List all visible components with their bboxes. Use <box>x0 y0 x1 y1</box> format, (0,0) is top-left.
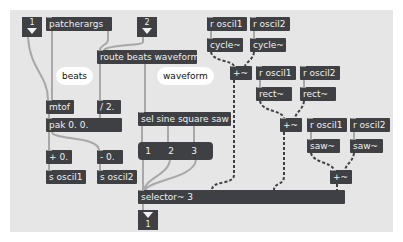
message-box[interactable]: 1 2 3 <box>138 142 213 160</box>
inlet-number: 2 <box>137 19 157 27</box>
receive-oscil1-object[interactable]: r oscil1 <box>256 66 296 80</box>
signal-plus-object[interactable]: +~ <box>230 66 252 80</box>
cord-sig-1 <box>212 80 234 190</box>
cord-inlet2-route <box>104 37 143 50</box>
cycle-object[interactable]: cycle~ <box>250 38 286 52</box>
message-item-3[interactable]: 3 <box>184 142 204 160</box>
receive-oscil1-object[interactable]: r oscil1 <box>307 118 347 132</box>
cord-patcherargs-route <box>100 31 108 50</box>
rect-object[interactable]: rect~ <box>300 87 336 101</box>
inlet-arrow-icon <box>142 28 152 34</box>
outlet-arrow-icon <box>143 212 153 218</box>
inlet-1[interactable]: 1 <box>22 17 42 37</box>
route-object[interactable]: route beats waveform <box>97 50 197 64</box>
sel-object[interactable]: sel sine square saw <box>138 112 231 126</box>
receive-oscil1-object[interactable]: r oscil1 <box>207 17 247 31</box>
waveform-comment: waveform <box>157 67 214 85</box>
outlet-1[interactable]: 1 <box>138 210 158 230</box>
message-item-1[interactable]: 1 <box>138 142 158 160</box>
inlet-number: 1 <box>22 19 42 27</box>
cycle-object[interactable]: cycle~ <box>207 38 243 52</box>
receive-oscil2-object[interactable]: r oscil2 <box>250 17 290 31</box>
minus-object[interactable]: - 0. <box>97 150 123 164</box>
mtof-object[interactable]: mtof <box>46 100 74 114</box>
divide-object[interactable]: / 2. <box>97 100 121 114</box>
patcherargs-object[interactable]: patcherargs <box>46 17 112 31</box>
saw-object[interactable]: saw~ <box>350 139 383 153</box>
cord-sig-2 <box>274 132 284 190</box>
inlet-2[interactable]: 2 <box>137 17 157 37</box>
send-oscil1-object[interactable]: s oscil1 <box>46 170 86 184</box>
cord-pak-minus0 <box>52 132 99 150</box>
receive-oscil2-object[interactable]: r oscil2 <box>350 118 390 132</box>
signal-plus-object[interactable]: +~ <box>330 170 352 184</box>
signal-plus-object[interactable]: +~ <box>280 118 302 132</box>
message-item-2[interactable]: 2 <box>161 142 181 160</box>
outlet-number: 1 <box>138 221 158 229</box>
rect-object[interactable]: rect~ <box>256 87 292 101</box>
beats-comment: beats <box>56 67 93 85</box>
send-oscil2-object[interactable]: s oscil2 <box>97 170 137 184</box>
plus-object[interactable]: + 0. <box>46 150 72 164</box>
selector-object[interactable]: selector~ 3 <box>138 190 345 204</box>
receive-oscil2-object[interactable]: r oscil2 <box>300 66 340 80</box>
cord-inlet1-mtof <box>28 37 48 100</box>
saw-object[interactable]: saw~ <box>307 139 340 153</box>
inlet-arrow-icon <box>27 28 37 34</box>
pak-object[interactable]: pak 0. 0. <box>46 118 122 132</box>
